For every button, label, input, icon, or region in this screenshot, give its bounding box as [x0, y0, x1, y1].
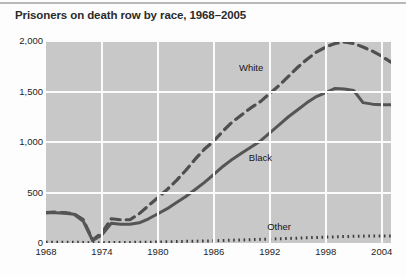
gridline-vertical: [269, 41, 271, 243]
gridline-horizontal: [46, 40, 391, 42]
gridline-vertical: [101, 41, 103, 243]
y-axis-tick-label: 2,000: [1, 35, 43, 46]
x-axis-tick-label: 2004: [371, 246, 392, 257]
y-axis-tick-label: 1,000: [1, 136, 43, 147]
gridline-vertical: [213, 41, 215, 243]
series-label-white: White: [239, 62, 263, 73]
x-axis-tick-label: 1974: [91, 246, 112, 257]
x-axis-tick-label: 1998: [315, 246, 336, 257]
series-label-black: Black: [249, 152, 272, 163]
x-axis: 1968197419801986199219982004: [46, 246, 391, 266]
chart-figure: Prisoners on death row by race, 1968–200…: [0, 0, 406, 277]
gridline-vertical: [157, 41, 159, 243]
gridline-horizontal: [46, 141, 391, 143]
y-axis-tick-label: 1,500: [1, 86, 43, 97]
x-axis-tick-label: 1992: [259, 246, 280, 257]
plot-area: WhiteBlackOther: [46, 41, 391, 243]
gridline-vertical: [381, 41, 383, 243]
x-axis-tick-label: 1980: [147, 246, 168, 257]
page-title: Prisoners on death row by race, 1968–200…: [15, 9, 246, 21]
series-line-black: [46, 88, 391, 240]
y-axis-tick-label: 500: [1, 187, 43, 198]
gridline-horizontal: [46, 192, 391, 194]
gridline-vertical: [325, 41, 327, 243]
y-axis: 05001,0001,5002,000: [0, 41, 43, 243]
gridline-horizontal: [46, 91, 391, 93]
x-axis-tick-label: 1986: [203, 246, 224, 257]
x-axis-tick-label: 1968: [35, 246, 56, 257]
series-label-other: Other: [267, 221, 291, 232]
top-rule-divider: [0, 2, 406, 4]
